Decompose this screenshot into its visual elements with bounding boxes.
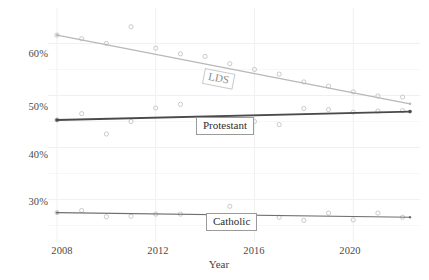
data-point <box>178 102 182 106</box>
data-point <box>277 123 281 127</box>
data-point <box>104 132 108 136</box>
data-point <box>80 112 84 116</box>
y-tick-label-40: 40% <box>8 149 48 160</box>
series-lds <box>55 25 411 105</box>
series-label-protestant: Protestant <box>196 117 254 135</box>
x-tick-label-2016: 2016 <box>231 245 277 256</box>
trend-endpoint <box>409 103 411 105</box>
data-point <box>228 62 232 66</box>
data-point <box>129 214 133 218</box>
data-point <box>302 106 306 110</box>
data-point <box>104 215 108 219</box>
data-point <box>326 107 330 111</box>
trend-endpoint <box>409 216 411 218</box>
trend-endpoint <box>55 118 59 122</box>
trend-endpoint <box>56 211 58 213</box>
y-tick-label-30: 30% <box>8 196 48 207</box>
data-point <box>178 52 182 56</box>
data-point <box>277 72 281 76</box>
data-point <box>228 204 232 208</box>
chart-container: 60% 50% 40% 30% 2008 2012 2016 2020 Year… <box>0 0 429 280</box>
data-point <box>376 211 380 215</box>
x-tick-label-2020: 2020 <box>327 245 373 256</box>
series-label-catholic: Catholic <box>206 213 257 231</box>
trend-endpoint <box>408 110 412 114</box>
data-point <box>80 208 84 212</box>
x-tick-label-2008: 2008 <box>39 245 85 256</box>
x-tick-label-2012: 2012 <box>135 245 181 256</box>
y-tick-label-50: 50% <box>8 101 48 112</box>
plot-area <box>0 0 429 280</box>
data-point <box>302 218 306 222</box>
data-point <box>203 54 207 58</box>
x-axis-title: Year <box>189 258 249 270</box>
data-point <box>129 25 133 29</box>
data-point <box>326 211 330 215</box>
y-tick-label-60: 60% <box>8 48 48 59</box>
chart-canvas <box>0 0 429 280</box>
trend-endpoint <box>56 34 58 36</box>
